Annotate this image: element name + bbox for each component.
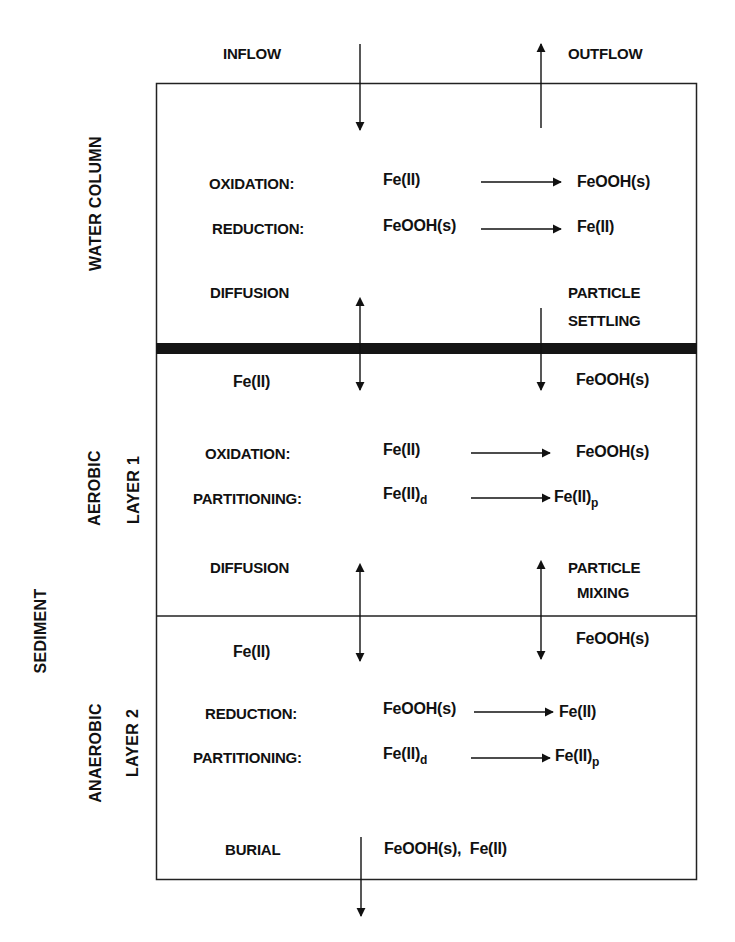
anaerobic-label: ANAEROBIC	[88, 703, 104, 803]
layer2-label: LAYER 2	[125, 703, 141, 783]
l2-feooh: FeOOH(s)	[576, 631, 649, 647]
particle-mixing-label-1: PARTICLE	[568, 560, 640, 575]
inflow-label: INFLOW	[223, 46, 281, 61]
l2-partitioning-to: Fe(II)p	[555, 748, 599, 768]
l2-partitioning-label: PARTITIONING:	[193, 750, 302, 765]
l1-oxidation-from: Fe(II)	[383, 442, 420, 458]
wc-diffusion-label: DIFFUSION	[210, 285, 289, 300]
wc-reduction-label: REDUCTION:	[212, 221, 304, 236]
wc-oxidation-from: Fe(II)	[383, 172, 420, 188]
l1-oxidation-label: OXIDATION:	[205, 446, 290, 461]
l1-fe-dissolved: Fe(II)	[233, 374, 270, 390]
l1-oxidation-to: FeOOH(s)	[576, 444, 649, 460]
particle-settling-label-1: PARTICLE	[568, 285, 640, 300]
l2-partitioning-from: Fe(II)d	[383, 746, 427, 766]
wc-reduction-from: FeOOH(s)	[383, 218, 456, 234]
layer1-label: LAYER 1	[126, 450, 142, 530]
particle-mixing-label-2: MIXING	[577, 585, 629, 600]
diagram-lines	[0, 0, 735, 942]
l2-reduction-label: REDUCTION:	[205, 706, 297, 721]
wc-oxidation-label: OXIDATION:	[209, 176, 294, 191]
sediment-water-interface	[156, 343, 697, 354]
outflow-label: OUTFLOW	[568, 46, 642, 61]
l1-partitioning-label: PARTITIONING:	[193, 491, 302, 506]
l1-partitioning-from: Fe(II)d	[383, 486, 427, 506]
water-column-label: WATER COLUMN	[88, 147, 104, 271]
particle-settling-label-2: SETTLING	[568, 313, 641, 328]
l2-reduction-to: Fe(II)	[559, 704, 596, 720]
wc-reduction-to: Fe(II)	[577, 219, 614, 235]
l2-fe-dissolved: Fe(II)	[233, 644, 270, 660]
l2-reduction-from: FeOOH(s)	[383, 701, 456, 717]
wc-oxidation-to: FeOOH(s)	[577, 174, 650, 190]
sediment-label: SEDIMENT	[33, 586, 49, 676]
l1-partitioning-to: Fe(II)p	[554, 489, 598, 509]
l1-diffusion-label: DIFFUSION	[210, 560, 289, 575]
l1-feooh: FeOOH(s)	[576, 372, 649, 388]
burial-label: BURIAL	[225, 842, 280, 857]
burial-species: FeOOH(s), Fe(II)	[384, 841, 507, 857]
aerobic-label: AEROBIC	[87, 448, 103, 528]
